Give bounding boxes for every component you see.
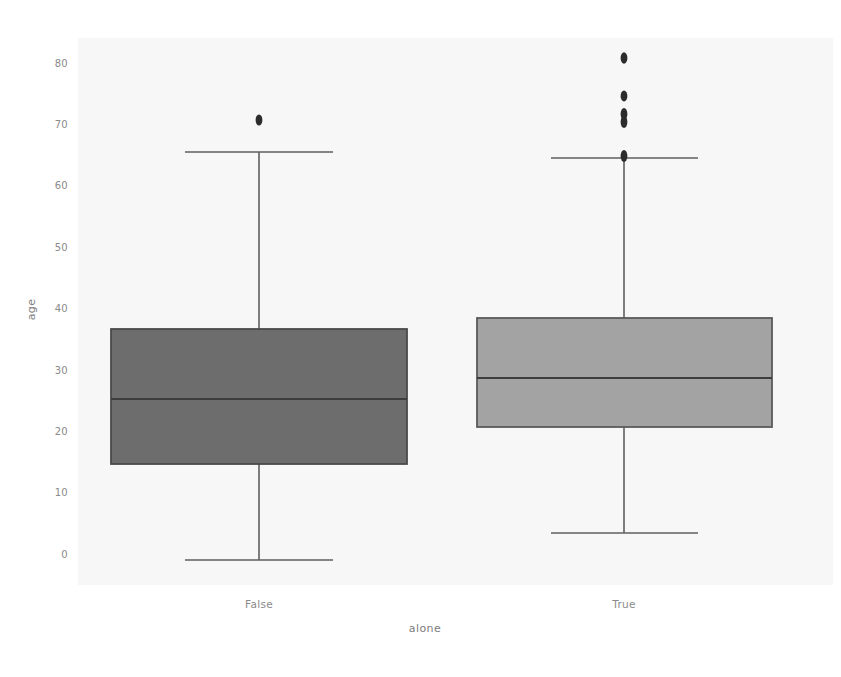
- boxplot-figure: 0 10 20 30 40 50 60 70 80 age: [0, 0, 841, 677]
- outlier-true-80: [621, 52, 628, 64]
- outlier-true-65: [621, 150, 628, 162]
- boxplot-canvas: [0, 0, 841, 677]
- x-tick-true: True: [612, 598, 636, 610]
- outlier-true-71: [621, 108, 628, 120]
- outlier-false-70: [256, 114, 263, 125]
- box-group-false[interactable]: [111, 114, 407, 560]
- box-group-true[interactable]: [477, 52, 772, 533]
- x-tick-false: False: [245, 598, 273, 610]
- x-axis-title: alone: [409, 622, 441, 635]
- box-body-true[interactable]: [477, 318, 772, 427]
- outlier-true-74: [621, 91, 628, 102]
- box-body-false[interactable]: [111, 329, 407, 464]
